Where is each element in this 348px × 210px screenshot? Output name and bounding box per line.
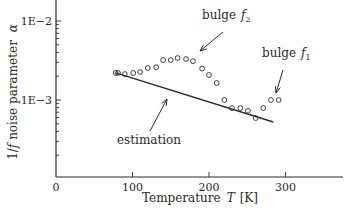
data-point <box>145 66 150 71</box>
data-point <box>161 58 166 63</box>
data-point <box>214 81 219 86</box>
data-point <box>131 71 136 76</box>
data-point <box>269 98 274 103</box>
data-point <box>184 57 189 62</box>
data-point <box>138 70 143 75</box>
arrow-icon <box>276 70 283 93</box>
annotation-bulge-f1: bulgef1 <box>262 46 311 93</box>
arrow-icon <box>200 32 223 51</box>
data-point <box>276 98 281 103</box>
x-tick-label: 0 <box>53 181 60 194</box>
y-tick-label: 1E−2 <box>21 15 52 28</box>
data-point <box>191 59 196 64</box>
data-point <box>261 106 266 111</box>
annotation-estimation: estimation <box>117 99 181 147</box>
data-point <box>168 58 173 63</box>
estimation-line <box>116 73 274 122</box>
annotation-bulge-f2: bulgef2 <box>200 8 251 51</box>
x-tick-label: 100 <box>122 181 143 194</box>
y-axis-title: 1/f noise parameter α <box>6 24 20 160</box>
annotations: bulgef2bulgef1estimation <box>117 8 311 147</box>
data-point <box>200 66 205 71</box>
chart: 1E−21E−3 0100200300 TemperatureT[K] 1/f … <box>0 0 348 210</box>
annotation-label: bulgef2 <box>202 8 251 24</box>
data-markers <box>113 56 281 121</box>
data-point <box>246 108 251 113</box>
data-point <box>207 73 212 78</box>
annotation-label: bulgef1 <box>262 46 311 62</box>
annotation-label: estimation <box>117 133 181 147</box>
data-point <box>238 106 243 111</box>
arrow-icon <box>150 99 167 131</box>
data-point <box>175 56 180 61</box>
y-tick-labels: 1E−21E−3 <box>21 15 52 107</box>
data-point <box>154 65 159 70</box>
x-ticks <box>133 172 286 177</box>
y-tick-label: 1E−3 <box>21 94 52 107</box>
estimation-line-path <box>116 73 274 122</box>
x-tick-label: 300 <box>275 181 296 194</box>
axes <box>56 0 343 177</box>
y-ticks <box>56 21 61 155</box>
data-point <box>222 98 227 103</box>
x-axis-title: TemperatureT[K] <box>142 191 258 205</box>
